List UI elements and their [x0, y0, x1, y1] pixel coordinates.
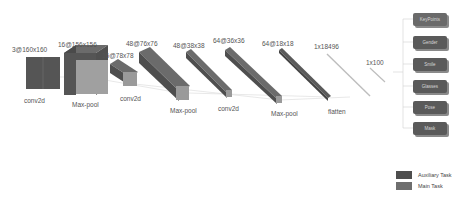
- layer-op-label: Max-pool: [271, 110, 298, 117]
- layer-block-3: [110, 59, 138, 86]
- layer-shape-label: 64@18x18: [262, 40, 294, 47]
- layer-block-4: [139, 47, 190, 101]
- layer-shape-label: 1x18496: [314, 43, 339, 50]
- layer-op-label: Max-pool: [72, 101, 99, 108]
- layer-shape-label: 1x100: [366, 59, 384, 66]
- layer-shape-label: 16@156x156: [58, 41, 97, 48]
- legend-auxiliary: Auxiliary Task: [396, 171, 452, 179]
- layer-op-label: flatten: [328, 108, 346, 115]
- layer-shape-label: 3@160x160: [12, 46, 47, 53]
- task-box-glasses: Glasses: [413, 80, 447, 93]
- task-label: KeyPoints: [420, 17, 440, 22]
- task-label: Glasses: [422, 84, 438, 89]
- layer-op-label: conv2d: [120, 95, 141, 102]
- task-box-pose: Pose: [413, 101, 447, 114]
- task-box-mask: Mask: [413, 122, 447, 135]
- task-label: Pose: [425, 105, 435, 110]
- task-bracket: [393, 19, 414, 128]
- layer-shape-label: 48@38x38: [173, 42, 205, 49]
- cnn-architecture-diagram: [0, 0, 460, 204]
- legend-label: Auxiliary Task: [418, 172, 452, 178]
- flatten-vector: [327, 54, 370, 96]
- legend-label: Main Task: [418, 183, 443, 189]
- task-box-keypoints: KeyPoints: [413, 13, 447, 26]
- task-box-gender: Gender: [413, 36, 447, 49]
- legend-main: Main Task: [396, 182, 443, 190]
- task-label: Gender: [422, 40, 437, 45]
- layer-shape-label: 16@78x78: [102, 52, 134, 59]
- legend-swatch-auxiliary: [396, 171, 412, 179]
- layer-block-7: [279, 48, 331, 101]
- layer-op-label: conv2d: [218, 105, 239, 112]
- task-box-smile: Smile: [413, 58, 447, 71]
- legend-swatch-main: [396, 182, 412, 190]
- task-label: Smile: [424, 62, 435, 67]
- layer-shape-label: 48@76x76: [126, 40, 158, 47]
- task-label: Mask: [425, 126, 436, 131]
- dense-vector: [370, 68, 385, 82]
- layer-op-label: Max-pool: [170, 107, 197, 114]
- layer-shape-label: 64@36x36: [213, 37, 245, 44]
- layer-block-6: [225, 47, 282, 104]
- layer-op-label: conv2d: [24, 97, 45, 104]
- layer-block-1: [26, 57, 60, 89]
